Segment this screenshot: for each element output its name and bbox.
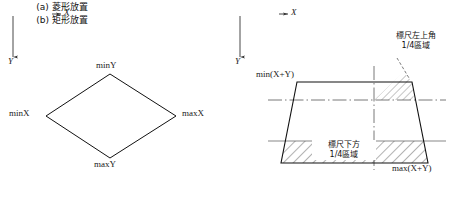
figure-container: Y X minY minX maxX maxY (a) 菱形放置 Y X min… [0,0,454,201]
panel-b-y-axis-label: Y [235,56,240,66]
annotation-upper-corner-line2: 1/4區域 [380,41,452,51]
annotation-upper-corner-line1: 標尺左上角 [380,31,452,41]
panel-a-y-axis-label: Y [8,56,13,66]
panel-a-label-max-x: maxX [182,108,204,118]
panel-a-axes [13,14,61,57]
annotation-upper-corner: 標尺左上角 1/4區域 [380,31,452,51]
panel-b-x-axis-label: X [291,7,297,17]
panel-b-label-max-xy: max(X+Y) [392,163,432,173]
annotation-lower-quarter-line2: 1/4區域 [312,150,376,160]
panel-a-label-max-y: maxY [94,159,116,169]
panel-a-diamond [46,74,176,158]
panel-a-label-min-y: minY [96,60,117,70]
annotation-lower-quarter-line1: 標尺下方 [312,140,376,150]
panel-b-label-min-xy: min(X+Y) [256,69,294,79]
annotation-lower-quarter: 標尺下方 1/4區域 [312,140,376,160]
panel-a-x-axis-label: X [64,7,70,17]
panel-a-label-min-x: minX [9,108,30,118]
panel-b-axes [240,14,288,57]
